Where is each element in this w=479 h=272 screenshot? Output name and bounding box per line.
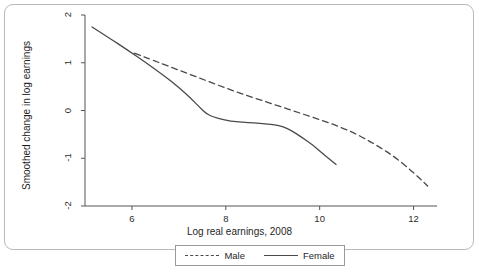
legend-label-male: Male bbox=[224, 250, 245, 261]
y-tick-label: 0 bbox=[62, 102, 73, 118]
legend-label-female: Female bbox=[303, 250, 335, 261]
y-axis-ticks bbox=[81, 15, 85, 206]
y-tick-label: 2 bbox=[62, 7, 73, 23]
y-tick-label: 1 bbox=[62, 54, 73, 70]
legend-item-male: Male bbox=[185, 250, 245, 261]
series-line-female bbox=[92, 27, 336, 165]
legend-swatch-dashed bbox=[185, 255, 219, 257]
x-tick-label: 10 bbox=[310, 213, 330, 224]
legend-swatch-solid bbox=[264, 255, 298, 257]
legend-item-female: Female bbox=[264, 250, 335, 261]
x-tick-label: 12 bbox=[404, 213, 424, 224]
y-axis-label: Smoothed change in log earnings bbox=[21, 26, 32, 206]
chart-legend: Male Female bbox=[175, 245, 345, 266]
y-tick-label: -2 bbox=[62, 198, 73, 214]
x-axis-label: Log real earnings, 2008 bbox=[0, 226, 479, 237]
x-axis-ticks bbox=[132, 206, 414, 210]
data-series-group bbox=[92, 27, 428, 186]
x-tick-label: 8 bbox=[216, 213, 236, 224]
series-line-male bbox=[134, 53, 427, 186]
axes bbox=[85, 15, 437, 206]
chart-figure: 210-1-2 681012 Smoothed change in log ea… bbox=[0, 0, 479, 272]
x-tick-label: 6 bbox=[122, 213, 142, 224]
y-tick-label: -1 bbox=[62, 150, 73, 166]
